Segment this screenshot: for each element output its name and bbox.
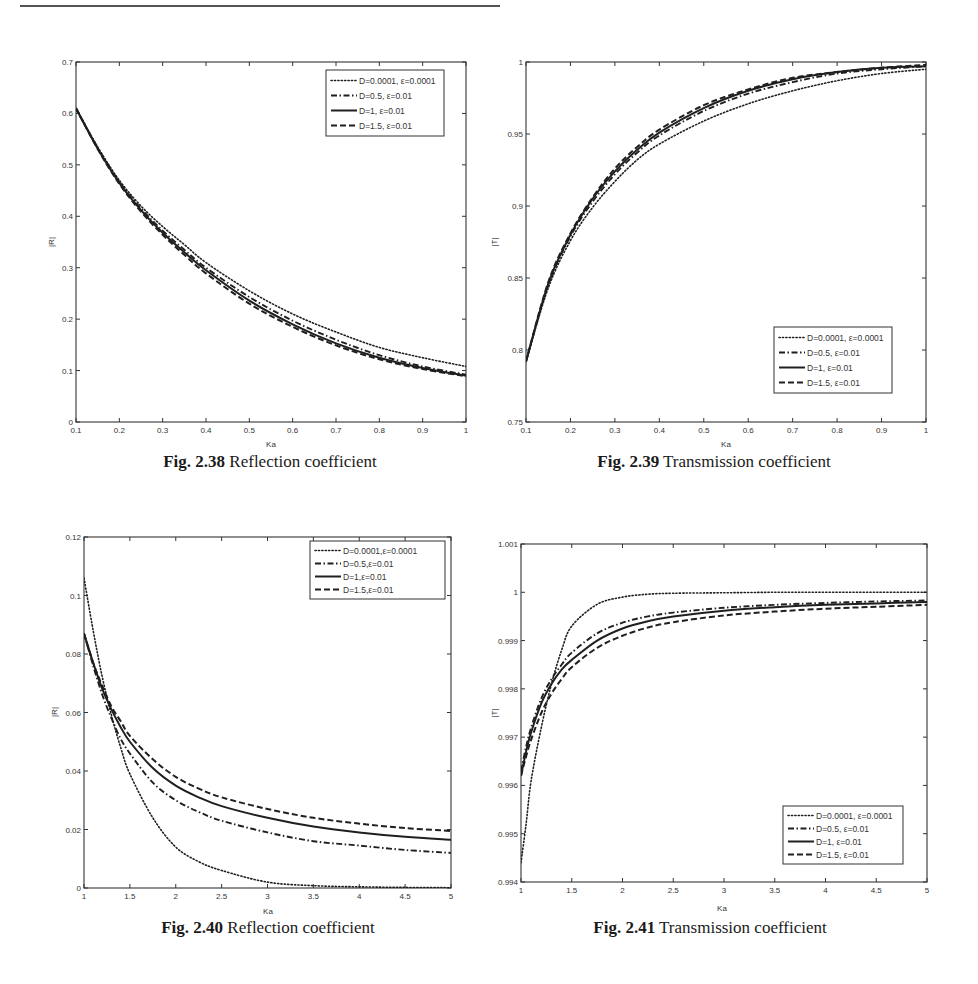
legend-entry: D=0.5, ε=0.01	[359, 91, 412, 101]
chart-2-39: 0.10.20.30.40.50.60.70.80.910.750.80.850…	[490, 58, 929, 449]
legend-entry: D=1, ε=0.01	[816, 837, 862, 847]
y-axis-label: |T|	[490, 708, 499, 717]
legend-entry: D=0.5, ε=0.01	[807, 348, 860, 358]
caption-fig-2-39: Fig. 2.39 Transmission coefficient	[597, 452, 830, 472]
y-tick-label: 0.02	[65, 826, 81, 835]
y-tick-label: 0.95	[507, 130, 523, 139]
legend-entry: D=0.5,ε=0.01	[343, 559, 394, 569]
x-axis-label: Ka	[721, 440, 731, 449]
x-tick-label: 4	[823, 886, 828, 895]
x-tick-label: 2.5	[216, 892, 228, 901]
chart-2-38: 0.10.20.30.40.50.60.70.80.9100.10.20.30.…	[47, 58, 469, 449]
x-tick-label: 2	[174, 892, 179, 901]
x-tick-label: 1.5	[124, 892, 136, 901]
x-axis-label: Ka	[266, 440, 276, 449]
x-tick-label: 0.7	[787, 426, 799, 435]
x-tick-label: 0.9	[876, 426, 888, 435]
y-tick-label: 0.996	[498, 781, 519, 790]
y-tick-label: 0.9	[512, 202, 524, 211]
y-tick-label: 0.997	[498, 733, 519, 742]
y-tick-label: 0.6	[62, 109, 74, 118]
legend-entry: D=1.5,ε=0.01	[343, 585, 394, 595]
x-tick-label: 0.8	[374, 426, 386, 435]
x-tick-label: 4.5	[400, 892, 412, 901]
x-tick-label: 3.5	[308, 892, 320, 901]
legend-entry: D=0.5, ε=0.01	[816, 824, 869, 834]
x-tick-label: 4	[357, 892, 362, 901]
legend-entry: D=1, ε=0.01	[807, 363, 853, 373]
chart-2-41: 11.522.533.544.550.9940.9950.9960.9970.9…	[490, 540, 930, 913]
x-tick-label: 1	[82, 892, 87, 901]
y-tick-label: 0.8	[512, 346, 524, 355]
x-tick-label: 0.5	[698, 426, 710, 435]
legend: D=0.0001, ε=0.0001D=0.5, ε=0.01D=1, ε=0.…	[326, 70, 444, 136]
x-tick-label: 0.2	[114, 426, 126, 435]
x-tick-label: 4.5	[871, 886, 883, 895]
y-tick-label: 0.85	[507, 274, 523, 283]
caption-fig-2-41: Fig. 2.41 Transmission coefficient	[593, 918, 826, 938]
x-tick-label: 1.5	[566, 886, 578, 895]
y-tick-label: 0.04	[65, 767, 81, 776]
legend: D=0.0001, ε=0.0001D=0.5, ε=0.01D=1, ε=0.…	[774, 327, 892, 393]
legend-entry: D=0.0001, ε=0.0001	[359, 76, 436, 86]
caption-number: Fig. 2.40	[161, 918, 223, 937]
legend-entry: D=1, ε=0.01	[359, 106, 405, 116]
y-tick-label: 0.4	[62, 212, 74, 221]
caption-text: Reflection coefficient	[223, 918, 375, 937]
y-tick-label: 0	[69, 418, 74, 427]
y-tick-label: 0.2	[62, 315, 74, 324]
x-tick-label: 5	[925, 886, 930, 895]
x-tick-label: 0.1	[70, 426, 82, 435]
y-tick-label: 0.1	[70, 592, 82, 601]
x-tick-label: 0.8	[832, 426, 844, 435]
y-axis-label: |R|	[50, 707, 59, 717]
x-tick-label: 0.4	[200, 426, 212, 435]
legend: D=0.0001, ε=0.0001D=0.5, ε=0.01D=1, ε=0.…	[783, 806, 903, 864]
x-tick-label: 0.4	[654, 426, 666, 435]
y-tick-label: 0.1	[62, 367, 74, 376]
legend-entry: D=0.0001,ε=0.0001	[343, 546, 417, 556]
x-tick-label: 2.5	[668, 886, 680, 895]
x-tick-label: 0.3	[609, 426, 621, 435]
x-tick-label: 3	[265, 892, 270, 901]
legend-entry: D=1,ε=0.01	[343, 572, 387, 582]
y-tick-label: 0.3	[62, 264, 74, 273]
x-tick-label: 3.5	[769, 886, 781, 895]
y-tick-label: 0.995	[498, 830, 519, 839]
x-tick-label: 0.7	[330, 426, 342, 435]
x-tick-label: 3	[722, 886, 727, 895]
x-tick-label: 5	[449, 892, 454, 901]
y-tick-label: 0	[77, 884, 82, 893]
x-axis-label: Ka	[263, 907, 273, 916]
y-tick-label: 1	[514, 588, 519, 597]
legend-entry: D=0.0001, ε=0.0001	[807, 333, 884, 343]
caption-fig-2-40: Fig. 2.40 Reflection coefficient	[161, 918, 375, 938]
y-tick-label: 1.001	[498, 540, 519, 549]
y-tick-label: 0.998	[498, 685, 519, 694]
x-tick-label: 1	[924, 426, 929, 435]
chart-2-40: 11.522.533.544.5500.020.040.060.080.10.1…	[50, 533, 454, 916]
caption-number: Fig. 2.38	[163, 452, 225, 471]
y-tick-label: 0.994	[498, 878, 519, 887]
x-tick-label: 0.1	[520, 426, 532, 435]
figures-canvas: 0.10.20.30.40.50.60.70.80.9100.10.20.30.…	[0, 0, 978, 984]
caption-text: Transmission coefficient	[659, 452, 831, 471]
x-tick-label: 1	[464, 426, 469, 435]
x-axis-label: Ka	[717, 904, 727, 913]
y-axis-label: |R|	[47, 237, 56, 247]
y-tick-label: 0.12	[65, 533, 81, 542]
caption-text: Transmission coefficient	[655, 918, 827, 937]
x-tick-label: 1	[519, 886, 524, 895]
y-axis-label: |T|	[490, 237, 499, 246]
legend: D=0.0001,ε=0.0001D=0.5,ε=0.01D=1,ε=0.01D…	[310, 541, 445, 599]
caption-number: Fig. 2.39	[597, 452, 659, 471]
legend-entry: D=1.5, ε=0.01	[359, 121, 412, 131]
x-tick-label: 0.6	[743, 426, 755, 435]
legend-entry: D=1.5, ε=0.01	[816, 850, 869, 860]
y-tick-label: 0.06	[65, 709, 81, 718]
y-tick-label: 1	[519, 58, 524, 67]
y-tick-label: 0.999	[498, 637, 519, 646]
caption-number: Fig. 2.41	[593, 918, 655, 937]
x-tick-label: 0.2	[565, 426, 577, 435]
y-tick-label: 0.75	[507, 418, 523, 427]
